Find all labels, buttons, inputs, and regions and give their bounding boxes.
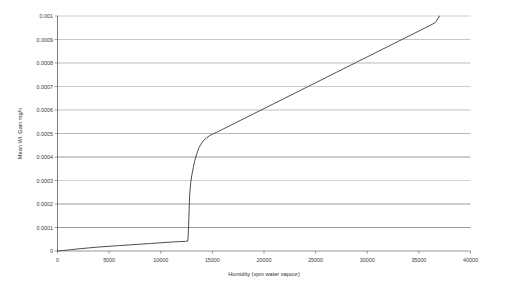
y-axis-title: Mean Wt. Gain mg/h (17, 108, 23, 159)
x-axis-title: Humidity (vpm water vapour) (228, 271, 300, 277)
x-tick-label: 30000 (360, 257, 375, 263)
x-tick-label: 10000 (153, 257, 168, 263)
chart-container: 0500010000150002000025000300003500040000… (0, 0, 507, 292)
x-tick-label: 25000 (308, 257, 323, 263)
x-tick-label: 20000 (257, 257, 272, 263)
y-tick-label: 0.0002 (37, 201, 54, 207)
y-tick-label: 0.0005 (37, 131, 54, 137)
x-tick-label: 40000 (463, 257, 478, 263)
y-tick-label: 0.0008 (37, 60, 54, 66)
y-tick-label: 0.001 (40, 13, 54, 19)
x-tick-label: 5000 (103, 257, 115, 263)
x-tick-label: 35000 (411, 257, 426, 263)
x-tick-label: 0 (56, 257, 59, 263)
y-tick-label: 0.0006 (37, 107, 54, 113)
x-tick-label: 15000 (205, 257, 220, 263)
y-tick-label: 0.0003 (37, 178, 54, 184)
line-chart: 0500010000150002000025000300003500040000… (0, 0, 507, 292)
y-tick-label: 0.0001 (37, 225, 54, 231)
y-tick-label: 0.0009 (37, 37, 54, 43)
y-tick-label: 0 (50, 248, 53, 254)
y-tick-label: 0.0007 (37, 84, 54, 90)
chart-background (0, 0, 507, 292)
y-tick-label: 0.0004 (37, 154, 54, 160)
